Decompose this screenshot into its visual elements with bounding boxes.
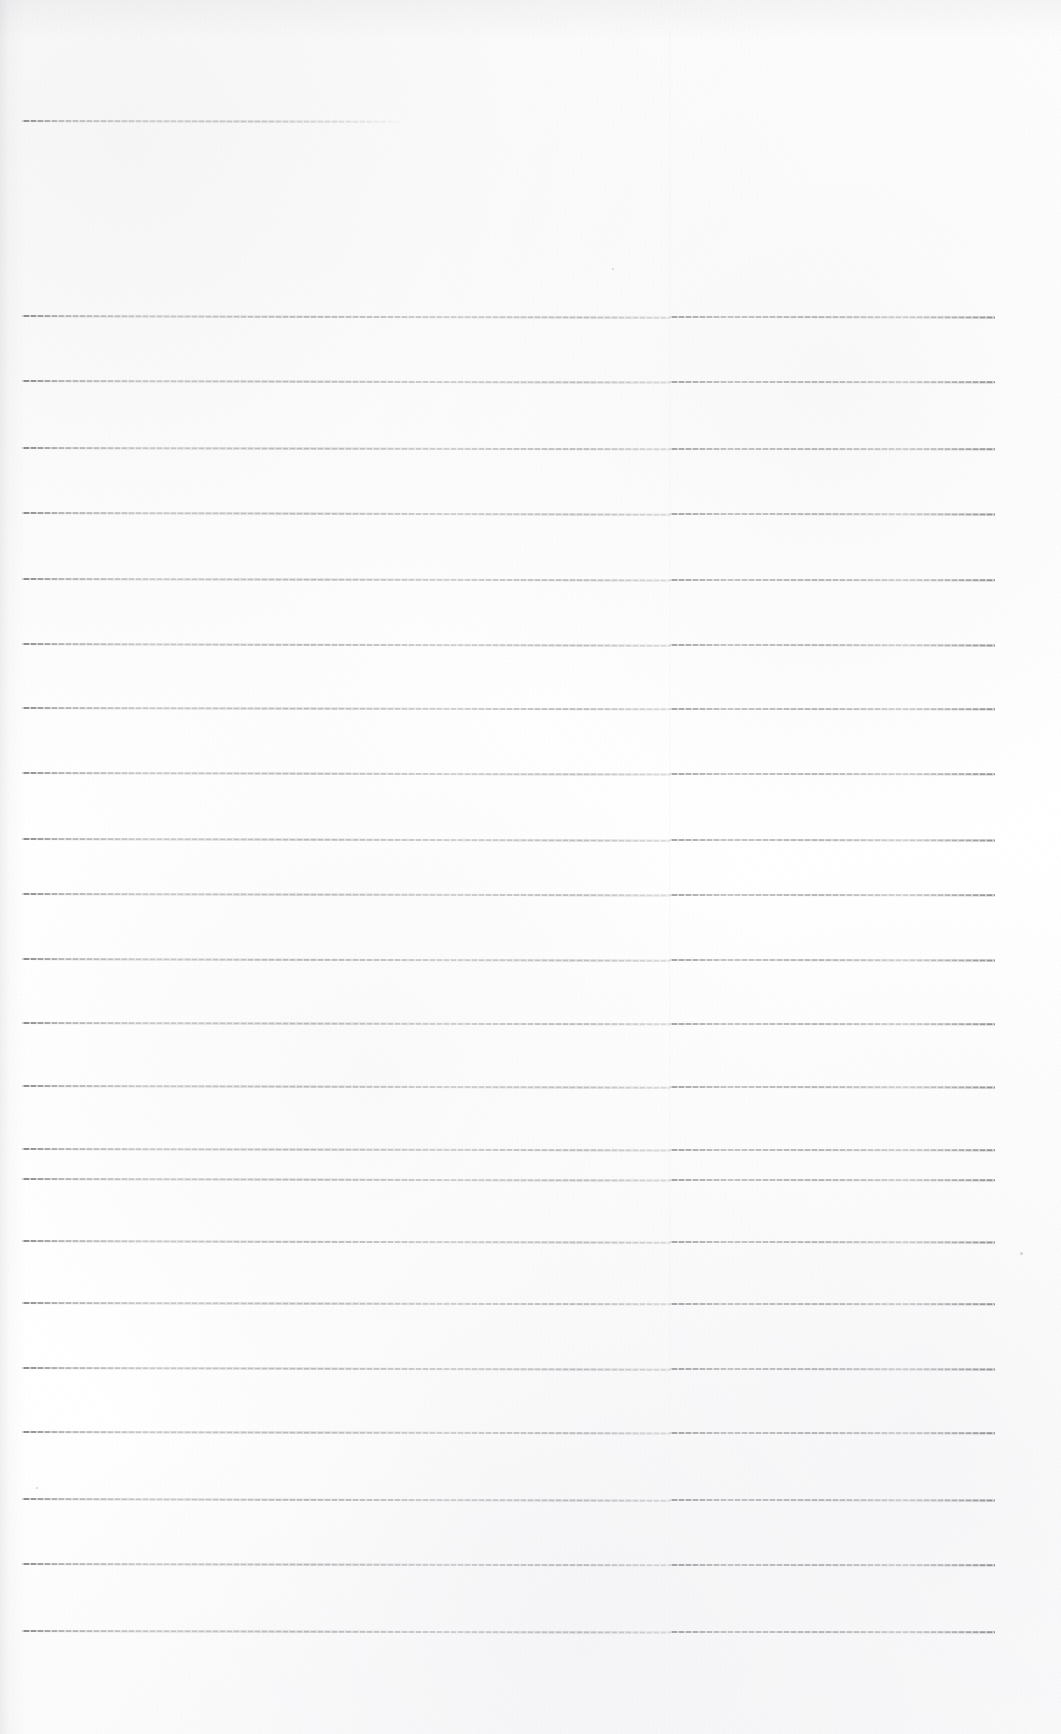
scanned-page	[0, 0, 1061, 1734]
paper-background	[0, 0, 1061, 1734]
